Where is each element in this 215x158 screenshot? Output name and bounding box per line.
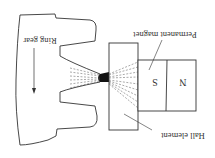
rotation-arrow-head: [32, 88, 36, 94]
hall-element-label: Hall element: [161, 131, 205, 141]
south-pole-label: S: [152, 77, 158, 88]
hall-element: [109, 43, 138, 130]
ring-gear-outline: [16, 14, 100, 145]
hall-sensor-diagram: S N Ring gear Permanent magnet Hall elem…: [0, 0, 215, 158]
ring-gear-label: Ring gear: [23, 36, 56, 46]
north-pole-label: N: [179, 77, 186, 88]
permanent-magnet-label: Permanent magnet: [133, 30, 197, 40]
diagram-canvas: S N Ring gear Permanent magnet Hall elem…: [0, 0, 215, 158]
